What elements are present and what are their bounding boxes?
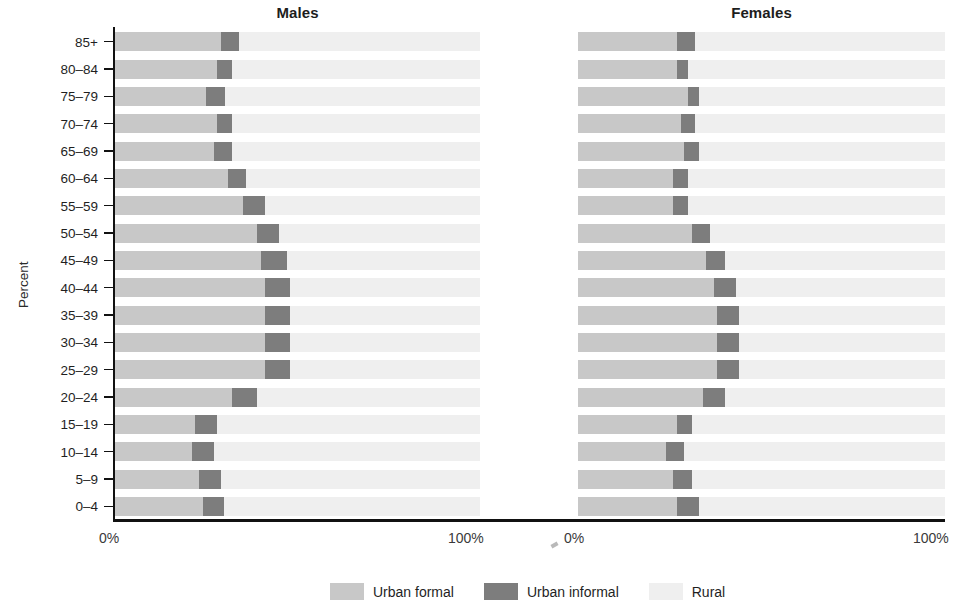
bar-segment-urban-informal bbox=[673, 169, 688, 188]
bar-row bbox=[115, 442, 480, 461]
bar-segment-rural bbox=[290, 333, 480, 352]
panel-title-males: Males bbox=[115, 4, 480, 21]
legend-swatch-urban-formal bbox=[330, 583, 364, 600]
bar-segment-rural bbox=[695, 32, 945, 51]
bar-row bbox=[115, 278, 480, 297]
bar-segment-urban-informal bbox=[206, 87, 224, 106]
bar-segment-urban-formal bbox=[578, 415, 677, 434]
bar-segment-urban-formal bbox=[115, 497, 203, 516]
bar-row bbox=[115, 306, 480, 325]
bar-segment-rural bbox=[290, 278, 480, 297]
y-axis-category-label: 60–64 bbox=[28, 171, 98, 186]
y-axis-tick bbox=[104, 232, 113, 234]
bar-segment-urban-informal bbox=[684, 142, 699, 161]
bar-segment-urban-formal bbox=[578, 196, 673, 215]
bar-segment-urban-informal bbox=[706, 251, 724, 270]
y-axis-tick bbox=[104, 178, 113, 180]
bar-segment-urban-informal bbox=[192, 442, 214, 461]
bar-row bbox=[115, 87, 480, 106]
bar-segment-urban-formal bbox=[578, 224, 692, 243]
bar-segment-urban-formal bbox=[578, 142, 684, 161]
bar-segment-urban-informal bbox=[677, 32, 695, 51]
legend-swatch-urban-informal bbox=[484, 583, 518, 600]
y-axis-tick bbox=[104, 205, 113, 207]
bar-segment-urban-formal bbox=[115, 306, 265, 325]
bar-segment-rural bbox=[710, 224, 945, 243]
legend-item: Rural bbox=[649, 583, 725, 600]
legend-swatch-rural bbox=[649, 583, 683, 600]
chart-panel-females bbox=[578, 28, 945, 520]
bar-segment-urban-formal bbox=[115, 442, 192, 461]
y-axis-category-label: 85+ bbox=[28, 34, 98, 49]
bar-segment-urban-formal bbox=[578, 114, 681, 133]
y-axis-category-label: 65–69 bbox=[28, 144, 98, 159]
bar-segment-urban-formal bbox=[115, 114, 217, 133]
bar-row bbox=[578, 224, 945, 243]
bar-segment-urban-informal bbox=[714, 278, 736, 297]
bar-segment-urban-formal bbox=[115, 224, 257, 243]
bar-segment-urban-informal bbox=[717, 333, 739, 352]
bar-row bbox=[115, 360, 480, 379]
y-axis-category-label: 70–74 bbox=[28, 116, 98, 131]
bar-segment-rural bbox=[257, 388, 480, 407]
bar-segment-urban-informal bbox=[261, 251, 287, 270]
panel-title-females: Females bbox=[578, 4, 945, 21]
bar-row bbox=[578, 114, 945, 133]
bar-segment-urban-informal bbox=[265, 360, 291, 379]
bar-segment-urban-informal bbox=[195, 415, 217, 434]
bar-segment-urban-formal bbox=[115, 87, 206, 106]
y-axis-tick bbox=[104, 260, 113, 262]
bar-segment-rural bbox=[699, 87, 945, 106]
bar-segment-rural bbox=[684, 442, 945, 461]
bar-segment-rural bbox=[688, 60, 945, 79]
y-axis-category-label: 75–79 bbox=[28, 89, 98, 104]
bar-segment-urban-formal bbox=[578, 278, 714, 297]
bar-segment-urban-informal bbox=[199, 470, 221, 489]
bar-row bbox=[115, 470, 480, 489]
bar-row bbox=[115, 32, 480, 51]
bar-segment-urban-formal bbox=[578, 251, 706, 270]
x-tick-label-males-0: 0% bbox=[99, 530, 119, 546]
bar-row bbox=[578, 32, 945, 51]
y-axis-tick bbox=[104, 96, 113, 98]
bar-segment-urban-informal bbox=[717, 306, 739, 325]
bar-row bbox=[115, 251, 480, 270]
y-axis-tick bbox=[104, 478, 113, 480]
bar-segment-rural bbox=[265, 196, 480, 215]
bar-segment-urban-formal bbox=[115, 470, 199, 489]
bar-segment-rural bbox=[232, 142, 480, 161]
legend-label: Urban formal bbox=[373, 584, 454, 600]
bar-segment-rural bbox=[221, 470, 480, 489]
bar-segment-rural bbox=[739, 360, 945, 379]
y-axis-tick bbox=[104, 451, 113, 453]
bar-row bbox=[578, 497, 945, 516]
y-axis-category-label: 10–14 bbox=[28, 444, 98, 459]
bar-segment-urban-informal bbox=[265, 306, 291, 325]
bar-segment-urban-informal bbox=[673, 196, 688, 215]
y-axis-tick bbox=[104, 68, 113, 70]
bar-row bbox=[578, 251, 945, 270]
bar-segment-urban-informal bbox=[688, 87, 699, 106]
y-axis-category-label: 5–9 bbox=[28, 472, 98, 487]
bar-segment-urban-formal bbox=[578, 60, 677, 79]
bar-segment-urban-formal bbox=[115, 415, 195, 434]
bar-row bbox=[578, 169, 945, 188]
bar-segment-rural bbox=[279, 224, 480, 243]
bar-segment-urban-informal bbox=[703, 388, 725, 407]
bar-segment-rural bbox=[739, 306, 945, 325]
bar-row bbox=[578, 333, 945, 352]
y-axis-category-label: 25–29 bbox=[28, 362, 98, 377]
bar-row bbox=[115, 196, 480, 215]
bar-segment-urban-informal bbox=[677, 497, 699, 516]
y-axis-category-label: 30–34 bbox=[28, 335, 98, 350]
bar-segment-rural bbox=[725, 388, 945, 407]
bar-segment-rural bbox=[699, 497, 945, 516]
y-axis-tick bbox=[104, 287, 113, 289]
bar-segment-urban-informal bbox=[217, 114, 232, 133]
bar-segment-urban-informal bbox=[243, 196, 265, 215]
bar-segment-rural bbox=[688, 196, 945, 215]
bar-segment-rural bbox=[692, 470, 945, 489]
bar-segment-urban-formal bbox=[578, 497, 677, 516]
y-axis-label: Percent bbox=[2, 226, 17, 252]
bar-segment-rural bbox=[692, 415, 945, 434]
